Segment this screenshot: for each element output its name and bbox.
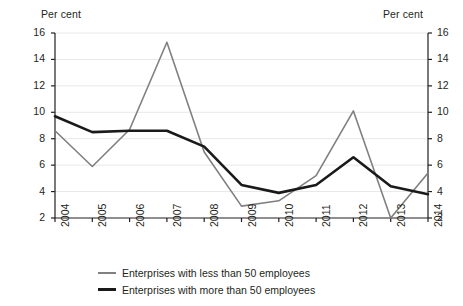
y-tick-label: 8 [29, 133, 45, 144]
y-tick-label: 10 [437, 106, 453, 117]
plot-area [0, 0, 463, 306]
y-tick-label: 12 [437, 80, 453, 91]
y-tick-label: 6 [437, 159, 453, 170]
series-line [55, 116, 428, 194]
x-tick-label: 2008 [209, 204, 220, 227]
legend-swatch-less-than-50-icon [98, 272, 116, 274]
x-tick-label: 2011 [321, 204, 332, 227]
y-tick-label: 4 [437, 186, 453, 197]
line-chart: Per cent Per cent 246810121416 246810121… [0, 0, 463, 306]
x-tick-label: 2013 [396, 204, 407, 227]
y-tick-label: 2 [29, 212, 45, 223]
y-tick-label: 16 [437, 27, 453, 38]
y-tick-label: 14 [437, 53, 453, 64]
x-tick-label: 2009 [247, 204, 258, 227]
x-tick-label: 2012 [358, 204, 369, 227]
x-tick-label: 2006 [135, 204, 146, 227]
x-tick-label: 2005 [97, 204, 108, 227]
y-tick-label: 8 [437, 133, 453, 144]
y-tick-label: 16 [29, 27, 45, 38]
y-tick-label: 6 [29, 159, 45, 170]
legend-item: Enterprises with more than 50 employees [98, 281, 398, 298]
x-tick-label: 2004 [60, 204, 71, 227]
legend-swatch-more-than-50-icon [98, 288, 116, 291]
y-tick-label: 14 [29, 53, 45, 64]
x-tick-label: 2007 [172, 204, 183, 227]
legend-label: Enterprises with less than 50 employees [122, 267, 310, 279]
y-tick-label: 4 [29, 186, 45, 197]
legend-item: Enterprises with less than 50 employees [98, 264, 398, 281]
y-tick-label: 10 [29, 106, 45, 117]
chart-legend: Enterprises with less than 50 employees … [98, 264, 398, 298]
legend-label: Enterprises with more than 50 employees [122, 284, 315, 296]
x-tick-label: 2014 [433, 204, 444, 227]
x-tick-label: 2010 [284, 204, 295, 227]
y-tick-label: 12 [29, 80, 45, 91]
